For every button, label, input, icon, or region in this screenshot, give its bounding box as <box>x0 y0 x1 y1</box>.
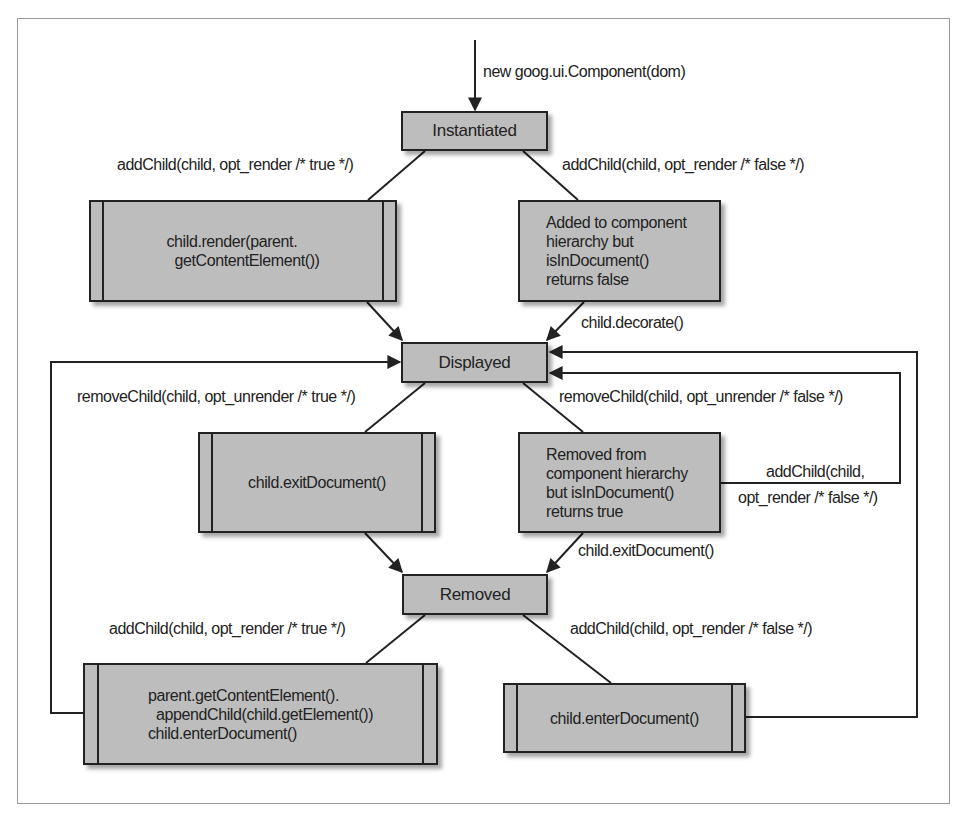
label-constructor: new goog.ui.Component(dom) <box>483 62 685 81</box>
edge-removed-to-append <box>366 615 425 663</box>
edge-instantiated-to-render <box>368 151 425 200</box>
process-bar-left <box>97 665 99 763</box>
lifecycle-diagram: Instantiated Displayed Removed child.ren… <box>0 0 968 819</box>
process-append-enter: parent.getContentElement(). appendChild(… <box>83 663 438 765</box>
process-render-text: child.render(parent. getContentElement()… <box>166 232 319 270</box>
process-render: child.render(parent. getContentElement()… <box>89 200 397 302</box>
label-remove-child-unrender-true: removeChild(child, opt_unrender /* true … <box>77 387 355 406</box>
state-instantiated-label: Instantiated <box>432 121 516 141</box>
process-bar-right <box>731 685 733 751</box>
process-enter-document: child.enterDocument() <box>503 683 746 753</box>
label-add-child-render-false-top: addChild(child, opt_render /* false */) <box>562 155 804 174</box>
label-add-child-loop-line2: opt_render /* false */) <box>738 488 878 507</box>
note-added-not-in-document-text: Added to component hierarchy but isInDoc… <box>546 213 686 289</box>
process-enter-document-text: child.enterDocument() <box>550 709 699 728</box>
process-exit-document: child.exitDocument() <box>198 432 436 533</box>
process-bar-right <box>421 434 423 531</box>
edge-decorate-to-displayed <box>547 302 584 340</box>
process-bar-right <box>382 202 384 300</box>
label-add-child-loop-line1: addChild(child, <box>766 462 864 481</box>
edge-displayed-to-exit <box>365 383 425 432</box>
note-removed-in-document-text: Removed from component hierarchy but isI… <box>546 445 688 521</box>
label-remove-child-unrender-false: removeChild(child, opt_unrender /* false… <box>559 387 843 406</box>
note-removed-in-document: Removed from component hierarchy but isI… <box>518 432 721 533</box>
edge-enter-document-to-displayed <box>550 352 917 717</box>
edge-append-enter-to-displayed <box>51 362 400 713</box>
process-bar-left <box>102 202 104 300</box>
note-added-not-in-document: Added to component hierarchy but isInDoc… <box>518 200 721 302</box>
process-exit-document-text: child.exitDocument() <box>248 473 386 492</box>
process-bar-left <box>211 434 213 531</box>
state-removed: Removed <box>402 574 548 615</box>
state-removed-label: Removed <box>440 585 511 605</box>
edge-exit-to-removed <box>365 533 402 572</box>
label-add-child-render-false-bottom: addChild(child, opt_render /* false */) <box>570 619 812 638</box>
process-append-enter-text: parent.getContentElement(). appendChild(… <box>148 686 373 743</box>
label-exit-document-edge: child.exitDocument() <box>578 541 714 560</box>
state-instantiated: Instantiated <box>401 111 548 151</box>
process-bar-left <box>516 685 518 751</box>
process-bar-right <box>422 665 424 763</box>
label-add-child-render-true-top: addChild(child, opt_render /* true */) <box>117 155 353 174</box>
state-displayed: Displayed <box>401 342 548 383</box>
label-add-child-render-true-bottom: addChild(child, opt_render /* true */) <box>109 619 345 638</box>
state-displayed-label: Displayed <box>439 353 511 373</box>
edge-render-to-displayed <box>367 302 402 340</box>
label-decorate: child.decorate() <box>581 313 683 332</box>
